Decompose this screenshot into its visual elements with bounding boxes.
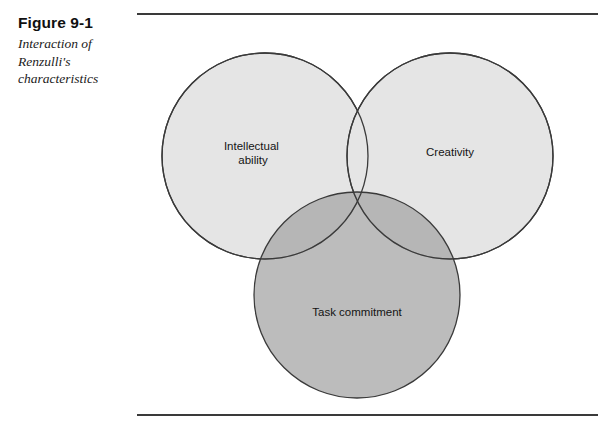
venn-diagram: Intellectual ability Creativity Task com…: [137, 16, 598, 412]
label-task-commitment-line-1: Task commitment: [312, 306, 402, 318]
figure-subtitle-line-2: Renzulli's: [18, 53, 130, 71]
label-creativity-line-1: Creativity: [426, 146, 474, 158]
venn-diagram-svg: Intellectual ability Creativity Task com…: [137, 16, 598, 412]
label-intellectual-ability-line-2: ability: [238, 154, 268, 166]
label-task-commitment: Task commitment: [312, 306, 402, 318]
bottom-divider: [137, 414, 598, 416]
figure-subtitle: Interaction of Renzulli's characteristic…: [18, 35, 130, 88]
figure-page: Figure 9-1 Interaction of Renzulli's cha…: [0, 0, 611, 434]
label-creativity: Creativity: [426, 146, 474, 158]
circle-task-commitment[interactable]: [254, 192, 460, 398]
figure-number: Figure 9-1: [18, 14, 130, 32]
top-divider: [137, 13, 598, 15]
figure-caption: Figure 9-1 Interaction of Renzulli's cha…: [18, 14, 130, 88]
figure-subtitle-line-1: Interaction of: [18, 35, 130, 53]
label-intellectual-ability-line-1: Intellectual: [224, 140, 279, 152]
figure-subtitle-line-3: characteristics: [18, 70, 130, 88]
